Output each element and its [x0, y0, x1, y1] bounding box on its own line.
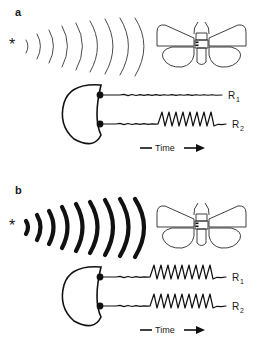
recording-label-r2: R [232, 119, 239, 130]
moth-tympanum-mark [196, 42, 199, 44]
trace-line [103, 294, 226, 308]
moth-abdomen [197, 229, 206, 246]
moth-forewing-left [157, 25, 194, 46]
moth-tympanum-mark [196, 223, 199, 225]
panel-a: a * [9, 6, 246, 153]
recording-label-r2: R [232, 301, 239, 312]
recording-trace-r2: R 2 [103, 112, 244, 132]
panel-b: b * [9, 184, 246, 335]
receptor-cell-r1 [97, 92, 104, 99]
tympanic-organ-icon [62, 267, 103, 326]
moth-antenna-right [205, 203, 209, 215]
time-arrow-head [196, 144, 205, 152]
sound-arc [37, 215, 41, 240]
sound-arc [37, 34, 41, 59]
recording-subscript-r1: 1 [240, 278, 244, 285]
sound-arc [105, 200, 113, 255]
moth-antenna-left [194, 22, 198, 34]
recording-label-r1: R [228, 90, 235, 101]
recording-subscript-r2: 2 [240, 307, 244, 314]
recording-trace-r1: R 1 [103, 265, 244, 285]
moth-hindwing-right [209, 228, 241, 248]
moth-forewing-left [157, 206, 194, 227]
moth-thorax [195, 40, 208, 48]
sound-arc [76, 204, 83, 251]
sound-arc [49, 30, 54, 63]
sound-arc [135, 18, 144, 76]
trace-line [103, 112, 226, 126]
panel-b-letter: b [15, 184, 22, 196]
moth-head [196, 214, 207, 221]
time-axis-b: Time [140, 325, 205, 335]
recording-subscript-r1: 1 [236, 96, 240, 103]
sound-arc [105, 19, 113, 74]
moth-head [196, 33, 207, 40]
receptor-cell-r2 [97, 303, 104, 310]
receptor-cell-r1 [97, 274, 104, 281]
sound-arc [26, 221, 28, 234]
trace-line [103, 94, 222, 95]
tympanic-organ-icon [62, 85, 103, 144]
moth-forewing-right [209, 206, 246, 227]
moth-forewing-right [209, 25, 246, 46]
asterisk-icon: * [9, 217, 15, 234]
moth-hindwing-right [209, 47, 241, 67]
asterisk-icon: * [9, 36, 15, 53]
sound-arc [62, 207, 68, 248]
moth-antenna-left [194, 203, 198, 215]
sound-arc [135, 199, 144, 257]
panel-a-letter: a [15, 6, 22, 18]
ear-outline [62, 85, 101, 144]
recording-trace-r1: R 1 [103, 90, 240, 103]
figure-canvas: a * [0, 0, 258, 347]
right-arrow-icon [184, 326, 205, 334]
trace-line [103, 265, 226, 279]
moth-thorax [195, 221, 208, 229]
moth-abdomen [197, 48, 206, 65]
recording-trace-r2: R 2 [103, 294, 244, 314]
moth-icon [157, 203, 246, 248]
moth-antenna-right [205, 22, 209, 34]
ear-outline [62, 267, 101, 326]
moth-hindwing-left [162, 228, 194, 248]
time-axis-a: Time [140, 143, 205, 153]
sound-arc [49, 211, 54, 244]
sound-arc [62, 26, 68, 67]
moth-tympanum-mark [196, 45, 199, 47]
receptor-cell-r2 [97, 121, 104, 128]
moth-icon [157, 22, 246, 67]
sound-waves-thin [26, 18, 144, 76]
moth-tympanum-mark [196, 226, 199, 228]
recording-subscript-r2: 2 [240, 125, 244, 132]
right-arrow-icon [184, 144, 205, 152]
sound-arc [26, 40, 28, 53]
time-axis-label: Time [155, 325, 175, 335]
sound-arc [76, 23, 83, 70]
moth-hindwing-left [162, 47, 194, 67]
time-axis-label: Time [155, 143, 175, 153]
sound-arc [90, 202, 98, 253]
sound-waves-thick [26, 199, 144, 257]
sound-arc [120, 199, 129, 256]
time-arrow-head [196, 326, 205, 334]
sound-arc [90, 21, 98, 72]
sound-arc [120, 18, 129, 75]
recording-label-r1: R [232, 272, 239, 283]
